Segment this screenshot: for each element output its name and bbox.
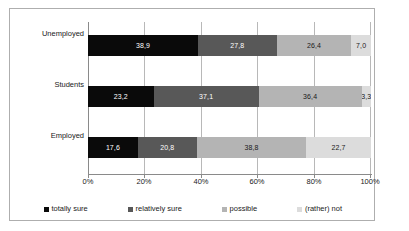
- legend-item-possible[interactable]: possible: [222, 205, 257, 213]
- bar-segment-possible[interactable]: 36,4: [259, 86, 362, 107]
- x-tick-40: 40%: [193, 178, 208, 186]
- legend-swatch-icon: [222, 207, 227, 212]
- bar-segment-relatively-sure[interactable]: 27,8: [198, 35, 277, 56]
- legend-swatch-icon: [128, 207, 133, 212]
- bar-segment-possible[interactable]: 26,4: [277, 35, 352, 56]
- legend-item-totally-sure[interactable]: totally sure: [44, 205, 88, 213]
- x-axis-line: [88, 174, 372, 175]
- legend-label: (rather) not: [305, 205, 342, 213]
- x-axis: 0% 20% 40% 60% 80% 100%: [88, 178, 371, 192]
- category-axis: Unemployed Students Employed: [10, 22, 84, 174]
- legend-label: possible: [230, 205, 258, 213]
- bar-segment-totally-sure[interactable]: 23,2: [88, 86, 154, 107]
- bar-segment-rather-not[interactable]: 3,3: [362, 86, 371, 107]
- legend-swatch-icon: [44, 207, 49, 212]
- chart-frame: Unemployed Students Employed 38,9 27,8 2…: [9, 8, 375, 221]
- bar-segment-rather-not[interactable]: 7,0: [351, 35, 371, 56]
- x-tick-0: 0%: [83, 178, 94, 186]
- category-label-students: Students: [10, 81, 84, 89]
- bar-row-students: 23,2 37,1 36,4 3,3: [88, 86, 371, 107]
- chart-legend: totally sure relatively sure possible (r…: [30, 201, 356, 217]
- x-tick-20: 20%: [136, 178, 151, 186]
- legend-item-relatively-sure[interactable]: relatively sure: [128, 205, 182, 213]
- x-tick-60: 60%: [249, 178, 264, 186]
- legend-label: relatively sure: [136, 205, 182, 213]
- x-tick-80: 80%: [306, 178, 321, 186]
- bar-row-unemployed: 38,9 27,8 26,4 7,0: [88, 35, 371, 56]
- legend-item-rather-not[interactable]: (rather) not: [297, 205, 342, 213]
- bar-segment-relatively-sure[interactable]: 20,8: [138, 137, 197, 158]
- legend-label: totally sure: [52, 205, 88, 213]
- plot-area: 38,9 27,8 26,4 7,0 23,2 37,1 36,4 3,3 17…: [88, 22, 371, 174]
- bar-segment-totally-sure[interactable]: 17,6: [88, 137, 138, 158]
- bar-segment-totally-sure[interactable]: 38,9: [88, 35, 198, 56]
- bar-segment-possible[interactable]: 38,8: [197, 137, 307, 158]
- category-label-employed: Employed: [10, 132, 84, 140]
- x-tick-100: 100%: [360, 178, 379, 186]
- legend-swatch-icon: [297, 207, 302, 212]
- bar-segment-rather-not[interactable]: 22,7: [306, 137, 370, 158]
- category-label-unemployed: Unemployed: [10, 30, 84, 38]
- bar-segment-relatively-sure[interactable]: 37,1: [154, 86, 259, 107]
- bar-row-employed: 17,6 20,8 38,8 22,7: [88, 137, 371, 158]
